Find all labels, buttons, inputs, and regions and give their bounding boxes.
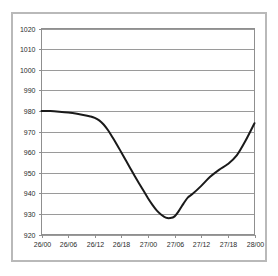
- y-axis-label-920: 920: [24, 232, 36, 239]
- series-line-pressure: [42, 111, 255, 218]
- x-axis-label-27/06: 27/06: [167, 241, 185, 248]
- y-axis-labels-group: 102010101000990980970960950940930920: [20, 26, 36, 239]
- y-axis-label-1000: 1000: [20, 67, 36, 74]
- y-axis-label-980: 980: [24, 108, 36, 115]
- data-series-group: [42, 111, 255, 218]
- y-axis-label-1010: 1010: [20, 46, 36, 53]
- x-axis-label-27/18: 27/18: [220, 241, 238, 248]
- x-axis-label-27/00: 27/00: [140, 241, 158, 248]
- x-axis-labels-group: 26/0026/0626/1226/1827/0027/0627/1227/18…: [34, 241, 265, 248]
- line-chart: 102010101000990980970960950940930920 26/…: [0, 0, 278, 276]
- plot-area-border: [42, 29, 255, 235]
- y-axis-label-1020: 1020: [20, 26, 36, 33]
- y-axis-label-960: 960: [24, 149, 36, 156]
- x-axis-label-26/06: 26/06: [60, 241, 78, 248]
- x-axis-label-28/00: 28/00: [247, 241, 265, 248]
- y-axis-label-990: 990: [24, 87, 36, 94]
- gridlines-group: [42, 29, 255, 236]
- y-axis-label-970: 970: [24, 129, 36, 136]
- chart-figure: 102010101000990980970960950940930920 26/…: [0, 0, 278, 276]
- x-axis-label-26/18: 26/18: [113, 241, 131, 248]
- x-axis-label-27/12: 27/12: [193, 241, 211, 248]
- x-axis-label-26/12: 26/12: [87, 241, 105, 248]
- y-axis-label-940: 940: [24, 190, 36, 197]
- y-axis-label-950: 950: [24, 170, 36, 177]
- y-axis-label-930: 930: [24, 211, 36, 218]
- x-axis-label-26/00: 26/00: [34, 241, 52, 248]
